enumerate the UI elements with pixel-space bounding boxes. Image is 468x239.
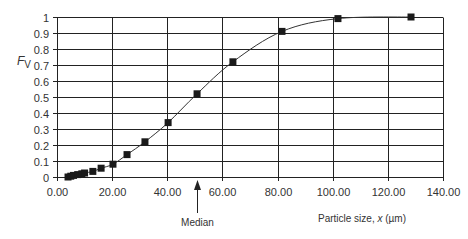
data-point-marker — [98, 165, 105, 172]
data-point-marker — [109, 161, 116, 168]
median-arrow-head-icon — [194, 180, 201, 190]
data-point-marker — [89, 168, 96, 175]
y-tick-label: 0.3 — [34, 124, 49, 136]
data-point-marker — [81, 170, 88, 177]
data-point-marker — [194, 90, 201, 97]
data-point-marker — [165, 119, 172, 126]
y-tick-label: 0.5 — [34, 92, 49, 104]
x-axis-title-prefix: Particle size, — [318, 213, 377, 224]
x-tick-label: 20.00 — [99, 186, 127, 198]
y-tick-label: 0.4 — [34, 108, 49, 120]
x-tick-label: 120.00 — [372, 186, 406, 198]
x-tick-label: 140.00 — [427, 186, 461, 198]
gridlines — [53, 18, 444, 182]
data-point-marker — [278, 28, 285, 35]
data-point-marker — [229, 58, 236, 65]
y-axis-title: FV — [17, 54, 31, 70]
y-tick-label: 0.8 — [34, 44, 49, 56]
y-axis-title-sub: V — [24, 59, 31, 70]
cumulative-distribution-chart: 00.10.20.30.40.50.60.70.80.910.0020.0040… — [0, 0, 468, 239]
y-tick-label: 0.9 — [34, 28, 49, 40]
y-tick-label: 0.7 — [34, 60, 49, 72]
x-tick-label: 40.00 — [154, 186, 182, 198]
distribution-curve — [68, 17, 411, 177]
x-tick-label: 100.00 — [317, 186, 351, 198]
y-tick-label: 0.1 — [34, 156, 49, 168]
y-tick-label: 0 — [43, 172, 49, 184]
y-tick-label: 1 — [43, 12, 49, 24]
x-tick-label: 0.00 — [47, 186, 68, 198]
x-axis-title-unit: (µm) — [382, 213, 406, 224]
y-tick-label: 0.6 — [34, 76, 49, 88]
x-axis-title: Particle size, x (µm) — [318, 213, 406, 224]
data-point-marker — [141, 138, 148, 145]
y-tick-label: 0.2 — [34, 140, 49, 152]
data-point-marker — [334, 15, 341, 22]
x-tick-label: 80.00 — [265, 186, 293, 198]
data-point-marker — [124, 151, 131, 158]
x-tick-label: 60.00 — [209, 186, 237, 198]
median-label: Median — [181, 217, 214, 228]
data-point-marker — [408, 14, 415, 21]
